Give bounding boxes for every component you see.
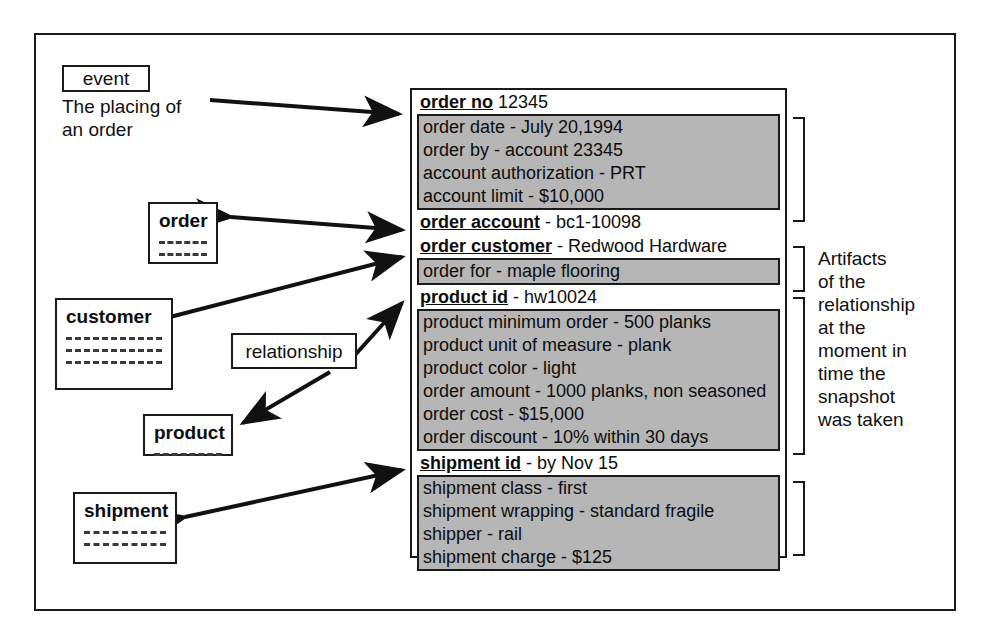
bracket-order-attributes [793,117,805,222]
diagram-canvas: event The placing of an order order cust… [0,0,982,635]
bracket-product-attributes [793,297,805,455]
entity-box-customer[interactable]: customer [55,298,173,390]
snapshot-record: order no 12345 order date - July 20,1994… [410,88,787,558]
attribute-row: order for - maple flooring [419,260,778,283]
entity-name: customer [66,306,162,328]
snapshot-key-value: - by Nov 15 [521,453,618,473]
entity-rule [84,543,166,546]
entity-rule [84,531,166,534]
snapshot-key-order-customer: order customer - Redwood Hardware [412,234,785,258]
attribute-block-order-customer: order for - maple flooring [417,258,780,285]
entity-name: shipment [84,500,166,522]
entity-name: order [159,210,207,232]
event-caption: The placing of an order [62,95,181,141]
attribute-row: product color - light [419,357,778,380]
attribute-block-order: order date - July 20,1994 order by - acc… [417,114,780,210]
snapshot-key-bold: order no [420,92,493,112]
entity-rule [66,361,162,364]
snapshot-key-bold: order account [420,212,540,232]
snapshot-key-order-no: order no 12345 [412,90,785,114]
entity-box-order[interactable]: order [148,202,218,264]
entity-rule [159,241,207,244]
entity-box-shipment[interactable]: shipment [73,492,177,564]
snapshot-key-bold: shipment id [420,453,521,473]
bracket-shipment-attributes [793,481,805,556]
attribute-row: shipper - rail [419,523,778,546]
snapshot-group-order-account: order account - bc1-10098 [412,210,785,234]
event-tag-label: event [83,69,129,88]
snapshot-key-bold: product id [420,287,508,307]
snapshot-key-value: - Redwood Hardware [552,236,727,256]
entity-box-product[interactable]: product [143,414,233,456]
attribute-row: product minimum order - 500 planks [419,311,778,334]
attribute-row: account authorization - PRT [419,162,778,185]
attribute-block-product: product minimum order - 500 planks produ… [417,309,780,451]
snapshot-key-bold: order customer [420,236,552,256]
snapshot-key-value: - bc1-10098 [540,212,641,232]
attribute-row: product unit of measure - plank [419,334,778,357]
snapshot-group-order-no: order no 12345 order date - July 20,1994… [412,90,785,210]
attribute-row: order amount - 1000 planks, non seasoned [419,380,778,403]
attribute-row: order discount - 10% within 30 days [419,426,778,449]
relationship-tag: relationship [231,333,357,369]
snapshot-group-shipment-id: shipment id - by Nov 15 shipment class -… [412,451,785,571]
snapshot-group-product-id: product id - hw10024 product minimum ord… [412,285,785,451]
attribute-row: shipment wrapping - standard fragile [419,500,778,523]
attribute-block-shipment: shipment class - first shipment wrapping… [417,475,780,571]
snapshot-key-product-id: product id - hw10024 [412,285,785,309]
event-tag: event [62,65,150,92]
snapshot-key-order-account: order account - bc1-10098 [412,210,785,234]
entity-rule [66,337,162,340]
entity-rule [66,349,162,352]
relationship-tag-label: relationship [245,342,342,361]
snapshot-group-order-customer: order customer - Redwood Hardware order … [412,234,785,285]
entity-name: product [154,422,222,444]
attribute-row: order cost - $15,000 [419,403,778,426]
attribute-row: shipment charge - $125 [419,546,778,569]
entity-rule [159,253,207,256]
snapshot-key-value: 12345 [493,92,548,112]
snapshot-key-shipment-id: shipment id - by Nov 15 [412,451,785,475]
snapshot-key-value: - hw10024 [508,287,597,307]
bracket-order-customer-attributes [793,246,805,292]
attribute-row: order date - July 20,1994 [419,116,778,139]
attribute-row: account limit - $10,000 [419,185,778,208]
attribute-row: shipment class - first [419,477,778,500]
attribute-row: order by - account 23345 [419,139,778,162]
entity-rule [154,453,222,456]
artifacts-annotation: Artifacts of the relationship at the mom… [818,247,953,431]
